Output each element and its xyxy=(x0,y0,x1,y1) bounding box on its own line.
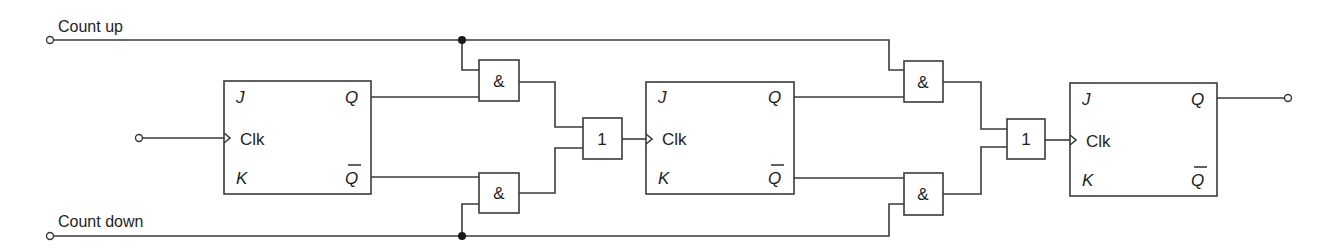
or-gate-2: 1 xyxy=(1007,119,1045,159)
and-gate-down-1: & xyxy=(479,173,519,213)
count-down-label: Count down xyxy=(58,213,143,230)
and-up-1-to-or-1-wire xyxy=(519,82,583,127)
ff1-j-pin: J xyxy=(235,88,245,107)
and-down-2-to-or-2-wire xyxy=(943,147,1007,194)
count-up-junction-dot xyxy=(458,36,466,44)
or-gate-1: 1 xyxy=(583,118,622,159)
and-gate-up-1: & xyxy=(479,60,519,101)
flip-flop-1: J Clk K Q Q xyxy=(224,81,371,194)
output-terminal[interactable] xyxy=(1285,95,1292,102)
and-down-1-to-or-1-wire xyxy=(519,148,583,193)
count-up-label: Count up xyxy=(58,18,123,35)
svg-text:1: 1 xyxy=(1021,130,1030,149)
flip-flop-3: J Clk K Q Q xyxy=(1070,83,1217,196)
ff2-clk-pin: Clk xyxy=(662,130,687,149)
ff3-qbar-pin: Q xyxy=(1191,171,1204,190)
count-down-terminal[interactable] xyxy=(47,233,54,240)
svg-text:&: & xyxy=(917,73,929,92)
and-gate-down-2: & xyxy=(904,173,943,215)
svg-text:&: & xyxy=(493,184,505,203)
ff3-k-pin: K xyxy=(1082,171,1094,190)
ff1-clk-pin: Clk xyxy=(240,130,265,149)
svg-text:1: 1 xyxy=(597,130,606,149)
count-down-line xyxy=(47,204,905,240)
and-gate-up-2: & xyxy=(904,61,943,102)
clock-input-terminal[interactable] xyxy=(136,135,143,142)
flip-flop-2: J Clk K Q Q xyxy=(646,82,794,194)
ff2-q-pin: Q xyxy=(768,88,781,107)
ff1-q-pin: Q xyxy=(345,88,358,107)
ff2-k-pin: K xyxy=(658,169,670,188)
count-down-junction-dot xyxy=(458,232,466,240)
ff2-j-pin: J xyxy=(657,88,667,107)
ff3-q-pin: Q xyxy=(1191,90,1204,109)
count-up-terminal[interactable] xyxy=(47,37,54,44)
ff3-j-pin: J xyxy=(1081,90,1091,109)
ff1-k-pin: K xyxy=(236,169,248,188)
count-up-line xyxy=(47,36,905,70)
ff2-qbar-pin: Q xyxy=(768,169,781,188)
and-up-2-to-or-2-wire xyxy=(943,82,1007,129)
counter-circuit-diagram: Count up Count down J Clk K Q Q & & 1 xyxy=(0,0,1335,252)
svg-text:&: & xyxy=(917,185,929,204)
ff3-clk-pin: Clk xyxy=(1086,132,1111,151)
ff1-qbar-pin: Q xyxy=(345,169,358,188)
svg-text:&: & xyxy=(493,72,505,91)
